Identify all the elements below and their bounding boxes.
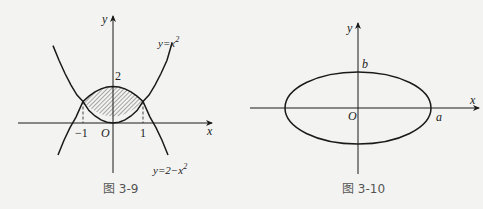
tick-a: a xyxy=(436,111,442,123)
caption-fig-3-9: 图 3-9 xyxy=(103,183,138,195)
curve-label-base: y=x xyxy=(158,37,175,49)
tick-x-neg1: −1 xyxy=(75,127,88,139)
curve-label-exp: 2 xyxy=(175,35,179,44)
curve-y-eq-x-squared xyxy=(53,43,172,123)
y-axis-label-2: y xyxy=(347,22,352,34)
figure-3-9-curves xyxy=(0,0,240,209)
curve-y-eq-2-minus-x-squared xyxy=(58,87,168,156)
x-axis-label: x xyxy=(207,125,212,137)
curve-label-y-eq-2-minus-x-squared: y=2−x2 xyxy=(153,163,187,176)
figure-3-10-canvas xyxy=(240,0,483,209)
y-axis-label: y xyxy=(102,13,107,25)
curve-label-y-eq-x-squared: y=x2 xyxy=(158,36,179,49)
caption-fig-3-10: 图 3-10 xyxy=(342,183,385,195)
tick-b: b xyxy=(362,58,368,70)
curve-label-base: y=2−x xyxy=(153,164,183,176)
origin-label: O xyxy=(101,127,110,139)
origin-label-2: O xyxy=(348,110,357,122)
tick-x-1: 1 xyxy=(140,127,146,139)
curve-label-exp: 2 xyxy=(183,162,187,171)
tick-y-2: 2 xyxy=(115,70,121,82)
x-axis-label-2: x xyxy=(470,94,475,106)
